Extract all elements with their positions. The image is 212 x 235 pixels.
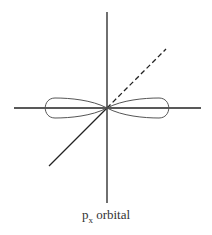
px-orbital-diagram bbox=[0, 0, 212, 235]
caption-suffix: orbital bbox=[93, 207, 130, 222]
diagram-caption: px orbital bbox=[0, 207, 212, 225]
